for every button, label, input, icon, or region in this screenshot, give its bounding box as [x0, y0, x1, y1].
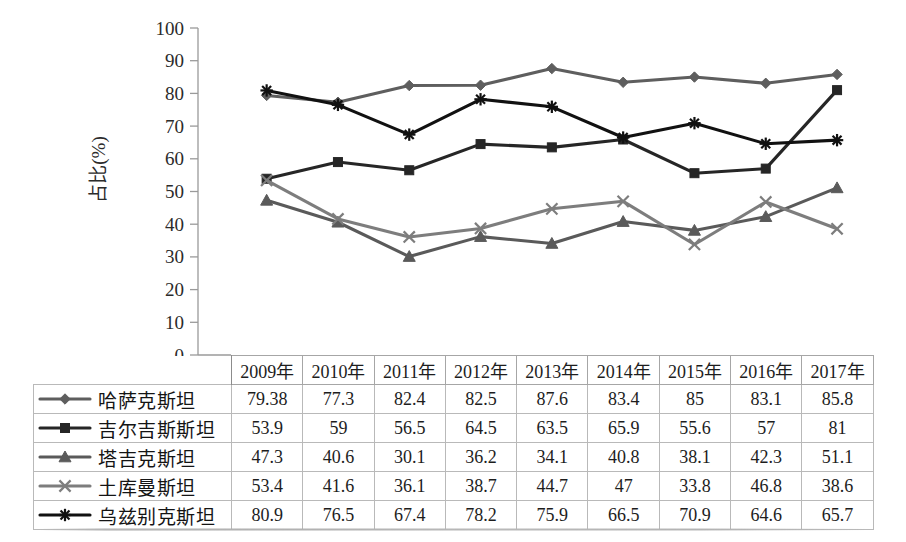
table-column-header: 2011年 [374, 356, 445, 385]
legend-label: 塔吉克斯坦 [98, 444, 196, 471]
marker-star [617, 131, 629, 143]
table-column-header: 2010年 [303, 356, 374, 385]
legend-label: 哈萨克斯坦 [98, 386, 196, 413]
table-cell-value: 40.6 [303, 443, 374, 472]
marker-star [59, 509, 71, 521]
legend-marker-icon [38, 477, 92, 495]
table-cell-value: 38.7 [445, 472, 516, 501]
table-row: 土库曼斯坦53.441.636.138.744.74733.846.838.6 [34, 472, 874, 501]
table-column-header: 2013年 [517, 356, 588, 385]
table-row: 乌兹别克斯坦80.976.567.478.275.966.570.964.665… [34, 501, 874, 530]
table-cell-value: 51.1 [802, 443, 873, 472]
table-header-row: 2009年2010年2011年2012年2013年2014年2015年2016年… [34, 356, 874, 385]
table-cell-value: 82.5 [445, 385, 516, 414]
chart-page: 0102030405060708090100占比(%) 2009年2010年20… [0, 0, 906, 542]
marker-square [405, 166, 414, 175]
table-cell-value: 64.6 [731, 501, 802, 530]
line-chart-plot: 0102030405060708090100占比(%) [0, 0, 906, 366]
table-cell-value: 63.5 [517, 414, 588, 443]
legend-swatch-star [38, 506, 92, 524]
y-axis: 0102030405060708090100占比(%) [88, 18, 231, 366]
table-column-header: 2017年 [802, 356, 873, 385]
y-axis-tick-label: 40 [165, 214, 184, 235]
table-column-header: 2016年 [731, 356, 802, 385]
marker-triangle [831, 182, 843, 193]
legend-swatch-triangle [38, 448, 92, 466]
marker-square [690, 169, 699, 178]
table-column-header: 2012年 [445, 356, 516, 385]
table-cell-value: 85 [659, 385, 730, 414]
table-cell-value: 82.4 [374, 385, 445, 414]
table-cell-value: 34.1 [517, 443, 588, 472]
table-column-header: 2009年 [232, 356, 303, 385]
marker-triangle [261, 194, 273, 205]
legend-label: 吉尔吉斯斯坦 [98, 415, 215, 442]
table-cell-value: 83.4 [588, 385, 659, 414]
marker-star [760, 138, 772, 150]
table-cell-value: 57 [731, 414, 802, 443]
table-cell-value: 78.2 [445, 501, 516, 530]
legend-row-塔吉克斯坦[interactable]: 塔吉克斯坦 [34, 443, 232, 472]
legend-label: 土库曼斯坦 [98, 473, 196, 500]
table-cell-value: 81 [802, 414, 873, 443]
legend-row-乌兹别克斯坦[interactable]: 乌兹别克斯坦 [34, 501, 232, 530]
marker-square [61, 424, 70, 433]
table-column-header: 2014年 [588, 356, 659, 385]
legend-row-哈萨克斯坦[interactable]: 哈萨克斯坦 [34, 385, 232, 414]
table-cell-value: 53.9 [232, 414, 303, 443]
table-cell-value: 85.8 [802, 385, 873, 414]
table-cell-value: 41.6 [303, 472, 374, 501]
table-cell-value: 44.7 [517, 472, 588, 501]
legend-label: 乌兹别克斯坦 [98, 502, 215, 529]
table-cell-value: 42.3 [731, 443, 802, 472]
marker-star [474, 93, 486, 105]
marker-diamond [832, 69, 842, 79]
table-cell-value: 79.38 [232, 385, 303, 414]
table-cell-value: 77.3 [303, 385, 374, 414]
table-row: 塔吉克斯坦47.340.630.136.234.140.838.142.351.… [34, 443, 874, 472]
marker-diamond [761, 78, 771, 88]
table-corner-cell [34, 356, 232, 385]
legend-row-吉尔吉斯斯坦[interactable]: 吉尔吉斯斯坦 [34, 414, 232, 443]
marker-square [833, 86, 842, 95]
chart-svg: 0102030405060708090100占比(%) [0, 0, 906, 366]
marker-diamond [547, 63, 557, 73]
y-axis-tick-label: 50 [165, 181, 184, 202]
y-axis-tick-label: 80 [165, 83, 184, 104]
y-axis-tick-label: 100 [156, 18, 185, 39]
table-cell-value: 55.6 [659, 414, 730, 443]
legend-swatch-x [38, 477, 92, 495]
marker-star [332, 99, 344, 111]
legend-marker-icon [38, 506, 92, 524]
marker-star [546, 101, 558, 113]
table-cell-value: 59 [303, 414, 374, 443]
legend-marker-icon [38, 448, 92, 466]
marker-diamond [618, 77, 628, 87]
y-axis-tick-label: 60 [165, 148, 184, 169]
y-axis-title: 占比(%) [88, 136, 110, 202]
marker-diamond [689, 72, 699, 82]
chart-data-table: 2009年2010年2011年2012年2013年2014年2015年2016年… [33, 355, 873, 530]
table-cell-value: 64.5 [445, 414, 516, 443]
table-cell-value: 38.6 [802, 472, 873, 501]
marker-square [761, 164, 770, 173]
table-cell-value: 30.1 [374, 443, 445, 472]
marker-diamond [404, 80, 414, 90]
legend-marker-icon [38, 390, 92, 408]
marker-square [333, 158, 342, 167]
scan-artifact [40, 528, 866, 531]
table-cell-value: 40.8 [588, 443, 659, 472]
y-axis-tick-label: 70 [165, 116, 184, 137]
y-axis-tick-label: 30 [165, 246, 184, 267]
table-column-header: 2015年 [659, 356, 730, 385]
marker-star [688, 117, 700, 129]
table-cell-value: 36.1 [374, 472, 445, 501]
table-cell-value: 66.5 [588, 501, 659, 530]
marker-diamond [60, 394, 70, 404]
marker-square [547, 143, 556, 152]
legend-swatch-diamond [38, 390, 92, 408]
legend-row-土库曼斯坦[interactable]: 土库曼斯坦 [34, 472, 232, 501]
table-cell-value: 67.4 [374, 501, 445, 530]
table-cell-value: 46.8 [731, 472, 802, 501]
table-cell-value: 38.1 [659, 443, 730, 472]
